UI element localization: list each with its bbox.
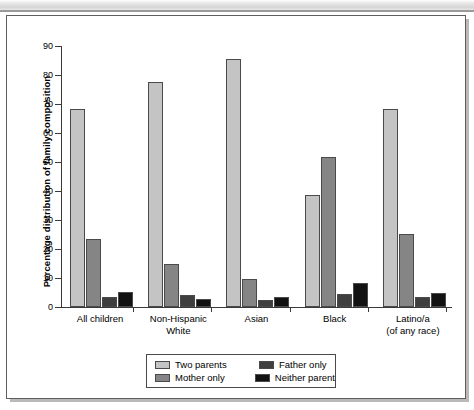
legend-item-neither-parent: Neither parent [255,373,335,383]
y-axis-tick-label: 70 [31,100,53,109]
y-axis-tick-label: 20 [31,245,53,254]
bar-father-only[interactable] [337,294,352,307]
y-axis-tick [55,191,61,192]
y-axis-tick-label: 60 [31,129,53,138]
y-axis-tick-label: 10 [31,274,53,283]
bar-neither-parent[interactable] [196,299,211,307]
category-label-line: White [123,325,233,337]
y-axis-tick [55,220,61,221]
y-axis-tick-label: 50 [31,158,53,167]
y-axis-tick [55,104,61,105]
y-axis-tick [55,249,61,250]
bar-father-only[interactable] [258,300,273,307]
bar-group-bars [305,46,369,307]
bar-father-only[interactable] [102,297,117,307]
y-axis-tick [55,307,61,308]
legend-label: Mother only [175,373,225,383]
bar-mother-only[interactable] [164,264,179,307]
bar-mother-only[interactable] [399,234,414,307]
bar-two-parents[interactable] [70,109,85,307]
category-separator-tick [290,307,291,312]
y-axis-tick [55,75,61,76]
legend-swatch-icon [155,361,170,369]
category-separator-tick [211,307,212,312]
scan-band-line [0,10,474,12]
legend-item-father-only: Father only [259,360,327,370]
bar-father-only[interactable] [180,295,195,307]
y-axis-tick-labels: 0102030405060708090 [27,0,53,410]
legend-swatch-icon [155,374,170,382]
category-label-line: (of any race) [358,325,468,337]
legend-label: Neither parent [275,373,335,383]
bar-neither-parent[interactable] [274,297,289,307]
category-label-line: Latino/a [358,313,468,325]
bar-two-parents[interactable] [148,82,163,307]
y-axis-tick [55,46,61,47]
y-axis-tick-label: 30 [31,216,53,225]
legend-label: Two parents [175,360,227,370]
bar-father-only[interactable] [415,297,430,307]
legend-row: Mother only Neither parent [155,371,335,384]
bar-mother-only[interactable] [321,157,336,307]
bar-group-bars [70,46,134,307]
x-axis-line [61,307,452,308]
bar-group-bars [383,46,447,307]
bar-group-bars [226,46,290,307]
y-axis-tick-label: 0 [31,303,53,312]
legend-swatch-icon [255,374,270,382]
chart-legend: Two parents Father only Mother only Neit… [146,354,336,388]
legend-item-mother-only: Mother only [155,373,255,383]
bar-mother-only[interactable] [86,239,101,307]
bar-neither-parent[interactable] [431,293,446,307]
y-axis-tick [55,133,61,134]
figure-frame-shadow-right [466,19,469,401]
category-separator-tick [368,307,369,312]
bar-neither-parent[interactable] [353,283,368,307]
y-axis-tick [55,162,61,163]
legend-label: Father only [279,360,327,370]
bar-two-parents[interactable] [226,59,241,307]
y-axis-tick [55,278,61,279]
bar-two-parents[interactable] [383,109,398,307]
category-label: Latino/a(of any race) [358,313,468,336]
y-axis-tick-label: 80 [31,71,53,80]
plot-area [62,46,452,307]
bar-mother-only[interactable] [242,279,257,307]
bar-two-parents[interactable] [305,195,320,307]
bar-neither-parent[interactable] [118,292,133,307]
y-axis-tick-label: 90 [31,42,53,51]
category-separator-tick [446,307,447,312]
figure-frame-shadow-bottom [10,399,469,402]
y-axis-tick-label: 40 [31,187,53,196]
bar-group-bars [148,46,212,307]
legend-row: Two parents Father only [155,358,335,371]
category-separator-tick [133,307,134,312]
legend-item-two-parents: Two parents [155,360,259,370]
legend-swatch-icon [259,361,274,369]
